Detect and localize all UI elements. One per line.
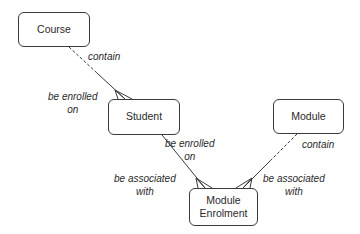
entity-course[interactable]: Course [18, 12, 90, 47]
student-enrolment-from-label: be enrolled on [165, 138, 214, 163]
entity-student-label: Student [126, 110, 162, 123]
entity-student[interactable]: Student [108, 99, 180, 135]
module-enrolment-to-label: be associated with [263, 173, 325, 198]
course-student-from-label: contain [88, 51, 120, 64]
entity-course-label: Course [37, 23, 71, 36]
course-student-to-label: be enrolled on [48, 91, 97, 116]
entity-module-label: Module [291, 110, 325, 123]
module-enrolment-from-label: contain [302, 139, 334, 152]
entity-module-enrolment-label-line1: Module [206, 194, 240, 207]
entity-module[interactable]: Module [273, 99, 344, 134]
student-enrolment-to-label: be associated with [114, 173, 176, 198]
entity-module-enrolment-label-line2: Enrolment [200, 207, 248, 220]
module-enrolment-optional-segment [270, 134, 297, 161]
entity-module-enrolment[interactable]: Module Enrolment [189, 188, 258, 226]
